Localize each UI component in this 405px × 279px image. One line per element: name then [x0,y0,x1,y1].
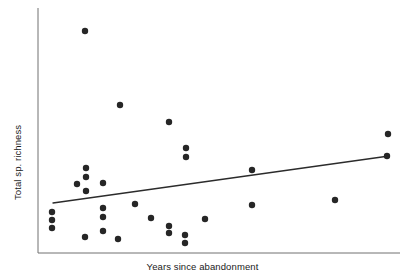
data-point [117,102,123,108]
data-point [249,167,255,173]
data-point [100,180,106,186]
y-axis-label: Total sp. richness [12,0,26,200]
data-point [182,240,188,246]
data-point [82,234,88,240]
data-point [385,131,391,137]
data-point [100,214,106,220]
data-points [49,28,391,246]
data-point [183,154,189,160]
data-point [83,174,89,180]
data-point [74,181,80,187]
data-point [332,197,338,203]
data-point [166,119,172,125]
data-point [148,215,154,221]
data-point [182,232,188,238]
data-point [83,188,89,194]
data-point [384,153,390,159]
data-point [115,236,121,242]
data-point [82,28,88,34]
data-point [249,202,255,208]
x-axis-label: Years since abandonment [0,261,405,272]
trendline [53,156,389,203]
data-point [132,201,138,207]
axes-spines [38,8,400,253]
data-point [49,217,55,223]
data-point [83,165,89,171]
data-point [100,205,106,211]
plot-canvas [0,0,405,279]
data-point [166,223,172,229]
data-point [166,230,172,236]
data-point [49,225,55,231]
regression-line [53,156,389,203]
data-point [100,228,106,234]
data-point [49,209,55,215]
scatter-chart-figure: Total sp. richness Years since abandonme… [0,0,405,279]
data-point [183,145,189,151]
data-point [202,216,208,222]
